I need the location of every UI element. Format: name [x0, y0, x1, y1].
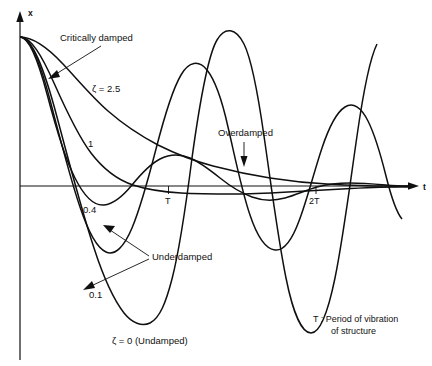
chart-canvas: x t T 2T Critically damped Overdamped Un… — [0, 0, 432, 366]
curve-zeta-0-4 — [20, 37, 411, 205]
annotation-overdamped: Overdamped — [218, 127, 273, 167]
annotation-critically-damped: Critically damped — [48, 32, 133, 79]
curve-label-zeta-0: ζ = 0 (Undamped) — [112, 335, 188, 346]
y-axis-arrowhead — [16, 11, 23, 22]
critically-damped-label: Critically damped — [60, 32, 133, 43]
underdamped-label: Underdamped — [152, 251, 212, 262]
curve-label-zeta-1: 1 — [88, 138, 93, 149]
curve-label-zeta-2-5: ζ = 2.5 — [92, 83, 120, 94]
vibration-response-figure: x t T 2T Critically damped Overdamped Un… — [0, 0, 432, 366]
note-line-2: of structure — [331, 326, 376, 336]
critically-damped-leader-line — [56, 46, 101, 74]
y-axis-label: x — [28, 8, 33, 18]
note-block: T : Period of vibration of structure — [313, 314, 398, 336]
tick-label-2T: 2T — [309, 196, 320, 206]
overdamped-label: Overdamped — [218, 127, 273, 138]
overdamped-arrowhead — [241, 156, 248, 167]
x-axis-label: t — [423, 182, 426, 192]
annotation-underdamped: Underdamped — [83, 225, 212, 290]
curve-label-zeta-0-4: 0.4 — [83, 204, 96, 215]
note-line-1: T : Period of vibration — [313, 314, 398, 324]
curve-label-zeta-0-1: 0.1 — [89, 289, 102, 300]
tick-label-T: T — [165, 196, 171, 206]
